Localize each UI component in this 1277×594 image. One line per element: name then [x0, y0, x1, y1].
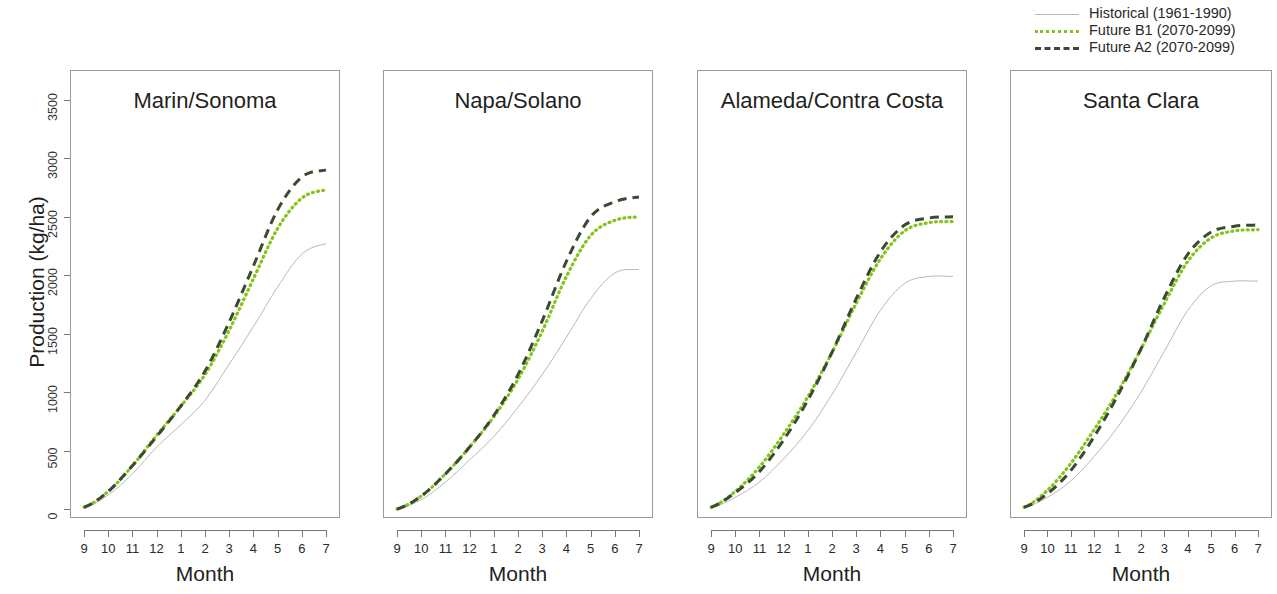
x-axis-tick: [808, 530, 809, 537]
x-axis-tick: [735, 530, 736, 537]
x-axis-title: Month: [383, 562, 653, 586]
x-axis-tick-label: 1: [1106, 541, 1130, 556]
x-axis-tick-label: 6: [290, 541, 314, 556]
x-axis-tick: [1235, 530, 1236, 537]
y-axis-tick-label-text: 3500: [46, 93, 60, 121]
x-axis-tick: [302, 530, 303, 537]
series-line: [1024, 230, 1258, 508]
x-axis-title: Month: [697, 562, 967, 586]
x-axis-tick: [132, 530, 133, 537]
x-axis-tick: [784, 530, 785, 537]
x-axis-tick: [1258, 530, 1259, 537]
y-axis: 0500100015002000250030003500: [40, 70, 72, 530]
x-axis-tick: [542, 530, 543, 537]
x-axis-tick-label: 5: [266, 541, 290, 556]
series-layer: [383, 70, 653, 518]
x-axis-tick-label: 11: [120, 541, 144, 556]
y-axis-tick-label-text: 2000: [46, 268, 60, 296]
y-axis-tick-label-text: 1000: [46, 385, 60, 413]
x-axis-tick-label: 3: [1152, 541, 1176, 556]
x-axis-tick: [615, 530, 616, 537]
x-axis-tick: [711, 530, 712, 537]
x-axis-tick-label: 4: [868, 541, 892, 556]
x-axis-tick: [1024, 530, 1025, 537]
x-axis-tick: [326, 530, 327, 537]
x-axis-tick: [1071, 530, 1072, 537]
x-axis-tick-label: 10: [409, 541, 433, 556]
x-axis-tick-label: 2: [1129, 541, 1153, 556]
series-line: [1024, 225, 1258, 507]
y-axis-tick-label-text: 500: [46, 447, 60, 468]
x-axis-tick-label: 3: [844, 541, 868, 556]
x-axis-tick: [1118, 530, 1119, 537]
x-axis-tick-label: 9: [699, 541, 723, 556]
x-axis-tick-label: 9: [1012, 541, 1036, 556]
x-axis-tick: [880, 530, 881, 537]
x-axis-tick-label: 12: [772, 541, 796, 556]
y-axis-tick-label: 500: [53, 458, 67, 479]
x-axis-tick-label: 9: [72, 541, 96, 556]
x-axis-tick-label: 2: [820, 541, 844, 556]
y-axis-tick-label: 1000: [53, 399, 67, 427]
x-axis-tick: [229, 530, 230, 537]
x-axis-tick-label: 1: [482, 541, 506, 556]
x-axis-tick: [1188, 530, 1189, 537]
x-axis-tick: [278, 530, 279, 537]
series-line: [711, 217, 953, 507]
x-axis-tick: [832, 530, 833, 537]
x-axis-tick: [253, 530, 254, 537]
x-axis-tick: [205, 530, 206, 537]
x-axis-tick-label: 12: [1082, 541, 1106, 556]
y-axis-tick-label: 3500: [53, 107, 67, 135]
series-layer: [1010, 70, 1272, 518]
x-axis-tick-label: 4: [241, 541, 265, 556]
series-line: [397, 269, 639, 509]
x-axis-tick-label: 7: [314, 541, 338, 556]
x-axis-tick: [929, 530, 930, 537]
x-axis-tick: [759, 530, 760, 537]
x-axis-tick: [1047, 530, 1048, 537]
series-line: [84, 190, 326, 507]
x-axis-tick: [181, 530, 182, 537]
chart-panel: Marin/Sonoma91011121234567Month: [70, 0, 340, 594]
series-line: [711, 276, 953, 508]
figure-canvas: Historical (1961-1990) Future B1 (2070-2…: [0, 0, 1277, 594]
x-axis-tick-label: 6: [917, 541, 941, 556]
x-axis-tick-label: 7: [1246, 541, 1270, 556]
y-axis-tick-label-text: 0: [46, 513, 60, 520]
x-axis-tick: [905, 530, 906, 537]
chart-panel: Santa Clara91011121234567Month: [1010, 0, 1272, 594]
series-line: [84, 170, 326, 507]
y-axis-tick-label: 2500: [53, 224, 67, 252]
x-axis-tick-label: 10: [1035, 541, 1059, 556]
x-axis-tick-label: 5: [1199, 541, 1223, 556]
series-layer: [697, 70, 967, 518]
y-axis-tick-label-text: 1500: [46, 327, 60, 355]
y-axis-tick-label: 0: [53, 516, 67, 523]
y-axis-tick-label: 1500: [53, 341, 67, 369]
x-axis-tick: [445, 530, 446, 537]
x-axis-title: Month: [70, 562, 340, 586]
x-axis-tick-label: 2: [506, 541, 530, 556]
x-axis-tick: [494, 530, 495, 537]
x-axis-tick-label: 12: [458, 541, 482, 556]
chart-panel: Napa/Solano91011121234567Month: [383, 0, 653, 594]
chart-panel: Alameda/Contra Costa91011121234567Month: [697, 0, 967, 594]
x-axis-tick-label: 10: [723, 541, 747, 556]
x-axis-tick: [591, 530, 592, 537]
x-axis-tick: [108, 530, 109, 537]
series-line: [1024, 281, 1258, 508]
x-axis-tick: [1211, 530, 1212, 537]
x-axis-tick: [856, 530, 857, 537]
x-axis-tick: [470, 530, 471, 537]
x-axis-tick-label: 1: [796, 541, 820, 556]
y-axis-tick-label-text: 2500: [46, 210, 60, 238]
x-axis-tick: [639, 530, 640, 537]
series-layer: [70, 70, 340, 518]
x-axis-tick: [1164, 530, 1165, 537]
x-axis-tick-label: 12: [145, 541, 169, 556]
x-axis-tick-label: 3: [217, 541, 241, 556]
x-axis-tick-label: 11: [433, 541, 457, 556]
x-axis-title: Month: [1010, 562, 1272, 586]
x-axis-tick-label: 11: [1059, 541, 1083, 556]
